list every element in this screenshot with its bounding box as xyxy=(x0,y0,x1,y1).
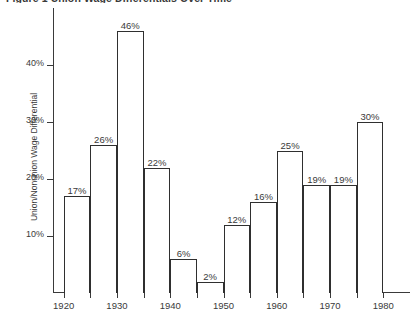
y-tick-label: 40% xyxy=(26,58,44,68)
bar-1925: 26% xyxy=(90,145,117,293)
y-axis-title: Union/Nonunion Wage Differential xyxy=(29,57,39,257)
x-tick-label-1950: 1950 xyxy=(201,300,247,311)
bar-1920: 17% xyxy=(64,196,91,293)
bar-1965: 19% xyxy=(303,185,330,293)
bar-value-label: 30% xyxy=(361,111,380,122)
x-tick-label-1930: 1930 xyxy=(94,300,140,311)
y-tick-40: 40% xyxy=(47,65,53,66)
x-tick-label-1980: 1980 xyxy=(360,300,406,311)
bar-1940: 6% xyxy=(170,259,197,293)
bar-value-label: 46% xyxy=(121,20,140,31)
bar-1975: 30% xyxy=(357,122,384,293)
bar-value-label: 26% xyxy=(94,134,113,145)
y-axis-line xyxy=(53,8,54,293)
bar-1945: 2% xyxy=(197,282,224,293)
bar-value-label: 22% xyxy=(147,157,166,168)
y-tick-label: 20% xyxy=(26,172,44,182)
bar-value-label: 19% xyxy=(307,174,326,185)
bar-value-label: 25% xyxy=(281,140,300,151)
bar-value-label: 6% xyxy=(177,248,191,259)
bar-value-label: 16% xyxy=(254,191,273,202)
x-tick-label-1920: 1920 xyxy=(41,300,87,311)
bar-1935: 22% xyxy=(144,168,171,293)
x-tick-label-1970: 1970 xyxy=(307,300,353,311)
plot-area: 10%20%30%40% 192019301940195019601970198… xyxy=(53,8,410,293)
y-tick-30: 30% xyxy=(47,122,53,123)
bar-1970: 19% xyxy=(330,185,357,293)
y-tick-label: 10% xyxy=(26,229,44,239)
bar-value-label: 17% xyxy=(67,185,86,196)
y-tick-label: 30% xyxy=(26,115,44,125)
bar-value-label: 12% xyxy=(227,214,246,225)
y-tick-10: 10% xyxy=(47,236,53,237)
x-tick-label-1960: 1960 xyxy=(254,300,300,311)
bar-1950: 12% xyxy=(224,225,251,293)
bar-1930: 46% xyxy=(117,31,144,293)
bar-1960: 25% xyxy=(277,151,304,294)
x-tick-1980 xyxy=(383,292,384,298)
chart-figure: Figure 1 Union Wage Differentials Over T… xyxy=(0,0,416,317)
bar-1955: 16% xyxy=(250,202,277,293)
x-tick-label-1940: 1940 xyxy=(147,300,193,311)
y-tick-20: 20% xyxy=(47,179,53,180)
bar-value-label: 19% xyxy=(334,174,353,185)
bar-value-label: 2% xyxy=(203,271,217,282)
chart-title: Figure 1 Union Wage Differentials Over T… xyxy=(6,0,406,3)
